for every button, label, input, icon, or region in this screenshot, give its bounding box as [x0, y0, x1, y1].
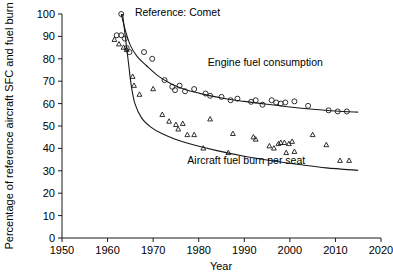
data-point-triangle [208, 117, 213, 121]
data-point-triangle [267, 143, 272, 147]
y-tick-label: 20 [43, 187, 55, 199]
y-tick-label: 40 [43, 142, 55, 154]
x-tick-label: 1990 [232, 244, 256, 256]
y-axis-ticks: 0102030405060708090100 [37, 8, 62, 244]
y-tick-label: 30 [43, 165, 55, 177]
data-point-triangle [185, 132, 190, 136]
data-point-triangle [290, 139, 295, 143]
chart-annotation-label: Reference: Comet [135, 6, 220, 18]
chart-annotation-label: Engine fuel consumption [208, 56, 323, 68]
chart-annotation-label: Aircraft fuel burn per seat [187, 154, 305, 166]
data-point-triangle [180, 121, 185, 125]
y-tick-label: 50 [43, 120, 55, 132]
data-point-circle [150, 56, 155, 61]
data-point-triangle [174, 122, 179, 126]
data-point-triangle [167, 119, 172, 123]
y-tick-label: 90 [43, 30, 55, 42]
data-point-triangle [160, 112, 165, 116]
y-tick-label: 0 [49, 232, 55, 244]
figure-container: 0102030405060708090100 19501960197019801… [0, 0, 393, 277]
data-point-circle [192, 87, 197, 92]
data-point-triangle [282, 140, 287, 144]
data-point-triangle [132, 83, 137, 87]
y-tick-label: 60 [43, 98, 55, 110]
data-point-triangle [324, 142, 329, 146]
data-point-triangle [192, 132, 197, 136]
y-tick-label: 70 [43, 75, 55, 87]
data-point-circle [306, 103, 311, 108]
y-axis-title: Percentage of reference aircraft SFC and… [3, 2, 15, 249]
chart-annotations-group: Reference: CometEngine fuel consumptionA… [135, 6, 323, 166]
data-point-circle [142, 50, 147, 55]
data-point-circle [253, 98, 258, 103]
data-point-circle [219, 94, 224, 99]
data-point-circle [283, 100, 288, 105]
data-point-triangle [310, 132, 315, 136]
data-point-triangle [130, 74, 135, 78]
data-point-circle [173, 88, 178, 93]
axes-group [62, 14, 381, 238]
data-point-triangle [176, 127, 181, 131]
x-tick-label: 1950 [50, 244, 74, 256]
trend-curve [123, 14, 359, 170]
x-tick-label: 2000 [278, 244, 302, 256]
data-point-circle [260, 102, 265, 107]
y-tick-label: 10 [43, 210, 55, 222]
x-tick-label: 1960 [95, 244, 119, 256]
data-point-triangle [338, 158, 343, 162]
x-tick-label: 1980 [186, 244, 210, 256]
data-point-triangle [137, 92, 142, 96]
y-tick-label: 80 [43, 53, 55, 65]
data-point-triangle [230, 131, 235, 135]
chart-canvas: 0102030405060708090100 19501960197019801… [0, 0, 393, 277]
x-axis-ticks: 19501960197019801990200020102020 [50, 238, 393, 256]
x-tick-label: 2020 [369, 244, 393, 256]
data-point-triangle [347, 158, 352, 162]
x-tick-label: 1970 [141, 244, 165, 256]
data-point-circle [170, 84, 175, 89]
x-tick-label: 2010 [323, 244, 347, 256]
data-point-triangle [151, 86, 156, 90]
x-axis-title: Year [210, 260, 233, 272]
data-point-triangle [272, 146, 277, 150]
data-point-circle [292, 99, 297, 104]
trend-curves-group [121, 14, 358, 170]
data-series-group [112, 12, 351, 163]
data-point-triangle [292, 149, 297, 153]
data-point-triangle [117, 42, 122, 46]
y-tick-label: 100 [37, 8, 55, 20]
